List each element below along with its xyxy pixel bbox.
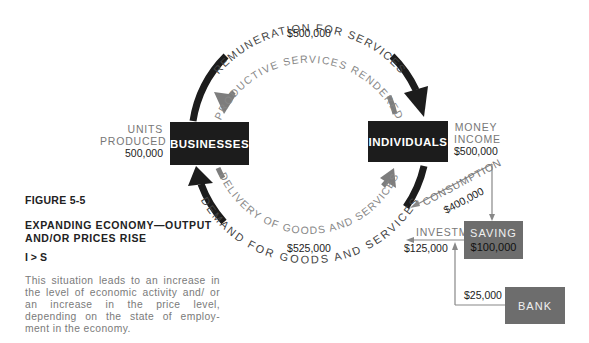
figure-description: This situation leads to an increase in t… [25, 275, 220, 335]
figure-number: FIGURE 5-5 [25, 194, 220, 206]
individuals-node: INDIVIDUALS [368, 121, 448, 162]
money-income-value: $500,000 [454, 145, 514, 157]
units-produced-annotation: UNITS PRODUCED 500,000 [100, 123, 163, 159]
bank-label: BANK [518, 300, 552, 312]
individuals-label: INDIVIDUALS [369, 136, 448, 148]
businesses-node: BUSINESSES [170, 122, 249, 165]
money-income-line1: MONEY [454, 121, 498, 133]
arrowhead-icon [489, 214, 495, 221]
businesses-label: BUSINESSES [170, 138, 249, 150]
arrowhead-icon [404, 86, 428, 117]
bank-loan-amount: $25,000 [464, 289, 502, 301]
remuneration-amount: $500,000 [287, 27, 331, 39]
bank-node: BANK [505, 287, 565, 324]
figure-title: EXPANDING ECONOMY—OUTPUT AND/OR PRICES R… [25, 219, 220, 245]
investment-amount: $125,000 [404, 242, 448, 254]
delivery-label: DELIVERY OF GOODS AND SERVICES [217, 170, 401, 236]
saving-label: SAVING [470, 227, 517, 239]
arrowhead-icon [452, 242, 458, 250]
saving-amount: $100,000 [471, 241, 517, 253]
arrowhead-icon [188, 166, 213, 186]
units-produced-value: 500,000 [100, 147, 163, 159]
units-produced-line1: UNITS [100, 123, 163, 135]
circular-flow-diagram: REMUNERATION FOR SERVICES PRODUCTIVE SER… [0, 0, 589, 343]
delivery-arrow [218, 168, 396, 188]
productive-services-label: PRODUCTIVE SERVICES RENDERED [212, 53, 407, 122]
figure-equation: I > S [25, 251, 220, 263]
money-income-annotation: MONEY INCOME $500,000 [454, 121, 514, 157]
productive-services-arrow [214, 92, 395, 114]
units-produced-line2: PRODUCED [100, 135, 163, 147]
money-income-line2: INCOME [454, 133, 498, 145]
saving-node: SAVING $100,000 [464, 221, 523, 259]
demand-amount: $525,000 [287, 242, 331, 254]
figure-caption: FIGURE 5-5 EXPANDING ECONOMY—OUTPUT AND/… [25, 194, 220, 335]
